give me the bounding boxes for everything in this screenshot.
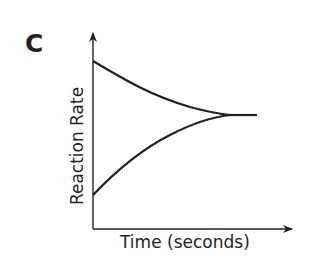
x-axis-label: Time (seconds) <box>120 234 250 251</box>
y-axis-label: Reaction Rate <box>69 87 86 205</box>
increasing-rate-curve <box>93 115 230 195</box>
decreasing-rate-curve <box>93 61 230 115</box>
